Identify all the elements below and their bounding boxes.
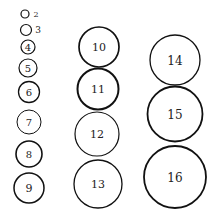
size-circle-14: 14 xyxy=(150,35,200,85)
circle-size-label: 9 xyxy=(26,182,33,195)
circle-size-diagram: 2345678910111213141516 xyxy=(0,0,216,221)
circle-outline xyxy=(21,10,29,18)
size-circle-8: 8 xyxy=(16,141,42,167)
circle-size-label: 12 xyxy=(90,128,104,141)
circle-size-label: 10 xyxy=(92,41,106,54)
size-circle-16: 16 xyxy=(144,146,206,208)
circle-size-label: 5 xyxy=(25,63,31,74)
size-circle-9: 9 xyxy=(14,173,44,203)
size-circle-15: 15 xyxy=(148,87,203,142)
circle-size-label: 15 xyxy=(167,108,182,122)
size-circle-6: 6 xyxy=(19,82,40,103)
size-circle-5: 5 xyxy=(19,59,37,77)
circle-size-label: 6 xyxy=(26,87,32,98)
size-circle-13: 13 xyxy=(74,160,122,208)
size-circle-4: 4 xyxy=(21,40,35,54)
circle-size-label: 14 xyxy=(167,54,183,68)
circle-size-label: 3 xyxy=(35,25,41,35)
circle-size-label: 13 xyxy=(91,178,105,191)
size-circle-2: 2 xyxy=(21,10,39,19)
size-circle-7: 7 xyxy=(17,110,41,134)
circle-size-label: 7 xyxy=(26,117,32,128)
size-circle-12: 12 xyxy=(75,112,119,156)
circle-outline xyxy=(21,25,32,36)
circle-size-label: 11 xyxy=(91,83,105,96)
size-circle-10: 10 xyxy=(79,27,119,67)
circle-size-label: 2 xyxy=(33,10,38,19)
circle-size-label: 4 xyxy=(25,42,31,53)
circle-size-label: 16 xyxy=(167,171,182,185)
circle-size-label: 8 xyxy=(26,149,32,160)
size-circle-11: 11 xyxy=(78,69,119,110)
size-circle-3: 3 xyxy=(21,25,42,36)
